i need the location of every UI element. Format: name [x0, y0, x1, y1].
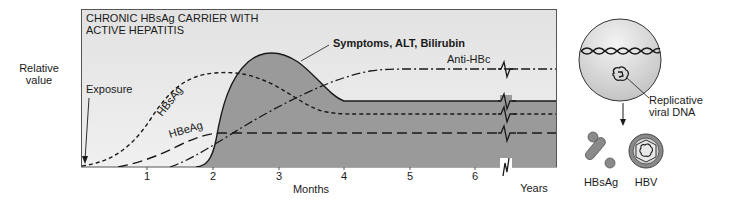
exposure-label: Exposure: [86, 83, 132, 95]
x-axis-tick-labels: 1 2 3 4 5 6: [144, 170, 478, 182]
x-tick-5: 5: [407, 170, 413, 182]
x-tick-4: 4: [341, 170, 347, 182]
x-tick-6: 6: [472, 170, 478, 182]
symptoms-label: Symptoms, ALT, Bilirubin: [333, 37, 465, 49]
replicative-dna-label-line1: Replicative: [649, 94, 703, 106]
y-axis-label-line1: Relative: [19, 62, 59, 74]
hepatitis-b-diagram: Relative value: [0, 0, 738, 201]
side-panel: Replicative viral DNA HBsAg HBV: [579, 19, 703, 188]
hbv-label: HBV: [635, 176, 658, 188]
hepatocyte-icon: [579, 19, 661, 101]
anti-hbc-label: Anti-HBc: [447, 53, 491, 65]
hbsag-particle-label: HBsAg: [584, 176, 618, 188]
chart-title-line1: CHRONIC HBsAg CARRIER WITH: [86, 12, 258, 24]
x-tick-2: 2: [210, 170, 216, 182]
replicative-dna-label-line2: viral DNA: [649, 106, 696, 118]
y-axis-label-line2: value: [26, 74, 52, 86]
x-tick-1: 1: [144, 170, 150, 182]
chart-title-line2: ACTIVE HEPATITIS: [86, 24, 184, 36]
x-axis-label-months: Months: [293, 183, 330, 195]
chart-panel: CHRONIC HBsAg CARRIER WITH ACTIVE HEPATI…: [82, 10, 557, 177]
down-arrow-icon: [620, 103, 626, 126]
hbsag-particle-icon: [584, 132, 615, 168]
x-axis-label-years: Years: [520, 182, 548, 194]
x-tick-3: 3: [276, 170, 282, 182]
hbv-virion-icon: [629, 134, 663, 168]
